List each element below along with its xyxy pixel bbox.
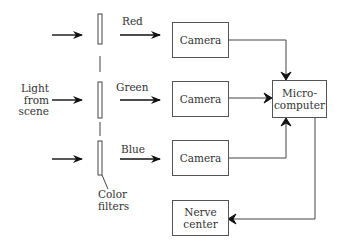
microcomputer-label-line: Micro- (282, 87, 317, 99)
camera-box-red: Camera (172, 22, 229, 58)
label-line: filters (98, 201, 129, 213)
camera-box-blue: Camera (172, 140, 229, 176)
camera-label: Camera (180, 93, 222, 105)
filter-blue (98, 141, 102, 175)
label-line: Color (98, 189, 129, 201)
nerve-center-label-line: center (183, 218, 217, 230)
label-line: scene (17, 106, 49, 118)
camera-box-green: Camera (172, 81, 229, 117)
camera-label: Camera (180, 152, 222, 164)
camera3-to-micro (228, 122, 286, 158)
channel-label-green: Green (116, 82, 149, 94)
nerve-center-label-line: Nerve (184, 206, 217, 218)
micro-to-nerve (232, 117, 315, 219)
channel-label-red: Red (122, 16, 143, 28)
light-from-scene-label: Light from scene (17, 83, 49, 118)
label-line: Light (17, 83, 49, 95)
camera-label: Camera (180, 34, 222, 46)
filter-green (98, 82, 102, 118)
filter-red (98, 14, 102, 44)
color-filters-label: Color filters (98, 189, 129, 212)
camera1-to-micro (228, 40, 286, 76)
filters-leader-line (102, 175, 108, 189)
channel-label-blue: Blue (121, 144, 145, 156)
microcomputer-label-line: computer (274, 99, 325, 111)
microcomputer-box: Micro- computer (272, 80, 327, 118)
nerve-center-box: Nerve center (172, 200, 229, 236)
